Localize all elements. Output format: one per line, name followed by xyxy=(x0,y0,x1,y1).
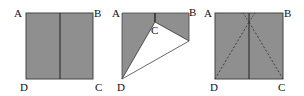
label-a: A xyxy=(112,7,120,19)
figure-3: A B D C xyxy=(204,7,291,93)
label-a: A xyxy=(14,7,22,19)
label-b: B xyxy=(189,6,196,18)
label-c: C xyxy=(151,24,158,36)
label-c: C xyxy=(278,81,285,93)
figure-1: A B D C xyxy=(14,7,102,93)
figure-2: A B C D xyxy=(112,6,196,93)
label-d: D xyxy=(210,81,218,93)
label-c: C xyxy=(95,81,102,93)
label-b: B xyxy=(284,7,291,19)
label-d: D xyxy=(20,81,28,93)
folding-diagram: A B D C A B C D A B D C xyxy=(0,0,304,96)
label-d: D xyxy=(117,81,125,93)
label-b: B xyxy=(94,7,101,19)
label-a: A xyxy=(204,7,212,19)
